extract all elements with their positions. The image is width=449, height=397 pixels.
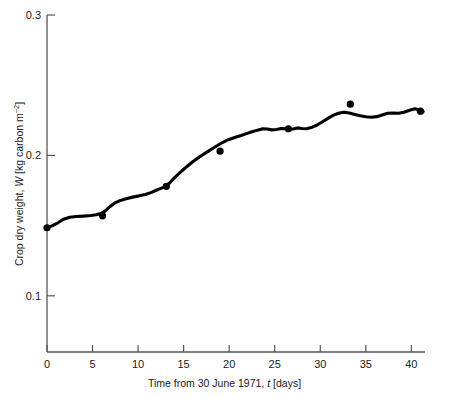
y-axis-title-pre: Crop dry weight, bbox=[13, 187, 25, 266]
data-point bbox=[163, 183, 170, 190]
chart-axes bbox=[47, 15, 425, 352]
x-axis-title-post: [days] bbox=[270, 377, 301, 389]
series-line bbox=[47, 109, 423, 228]
x-tick-label: 15 bbox=[178, 359, 190, 370]
y-axis-title: Crop dry weight, W [kg carbon m−2] bbox=[13, 89, 25, 279]
x-axis-title-pre: Time from 30 June 1971, bbox=[148, 377, 267, 389]
x-tick-label: 40 bbox=[405, 359, 417, 370]
chart-series bbox=[43, 101, 424, 232]
y-axis-title-post: [kg carbon m bbox=[13, 113, 25, 177]
x-tick-label: 25 bbox=[269, 359, 281, 370]
y-axis-symbol: W bbox=[13, 177, 25, 187]
x-tick-label: 30 bbox=[314, 359, 326, 370]
data-point bbox=[43, 224, 50, 231]
x-tick-label: 35 bbox=[360, 359, 372, 370]
x-tick-label: 20 bbox=[223, 359, 235, 370]
chart-tick-marks bbox=[47, 15, 411, 352]
chart-plot-area bbox=[0, 0, 449, 397]
y-axis-exponent: −2 bbox=[12, 105, 21, 113]
data-point bbox=[347, 101, 354, 108]
y-tick-label: 0.1 bbox=[15, 290, 41, 301]
chart-figure: 0510152025303540 0.10.20.3 Time from 30 … bbox=[0, 0, 449, 397]
x-tick-label: 5 bbox=[89, 359, 95, 370]
y-tick-label: 0.3 bbox=[15, 10, 41, 21]
data-point bbox=[417, 108, 424, 115]
x-tick-label: 0 bbox=[44, 359, 50, 370]
x-axis-title: Time from 30 June 1971, t [days] bbox=[0, 377, 449, 389]
data-point bbox=[99, 212, 106, 219]
data-point bbox=[216, 148, 223, 155]
x-tick-label: 10 bbox=[132, 359, 144, 370]
data-point bbox=[285, 125, 292, 132]
y-axis-title-tail: ] bbox=[13, 102, 25, 105]
